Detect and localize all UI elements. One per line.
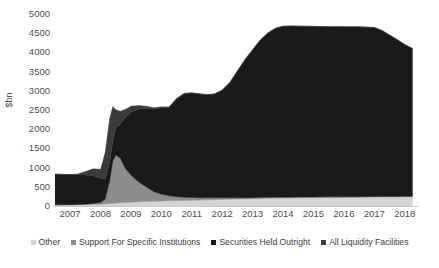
legend-swatch-icon (211, 240, 216, 245)
legend-swatch-icon (321, 240, 326, 245)
area-series (55, 26, 412, 205)
x-tick-label: 2016 (333, 209, 354, 219)
y-tick-label: 1500 (12, 144, 50, 154)
legend-label: Securities Held Outright (219, 238, 310, 247)
y-axis-tick-labels: 0500100015002000250030003500400045005000 (12, 14, 50, 206)
y-tick-label: 5000 (12, 9, 50, 19)
y-tick-label: 2000 (12, 124, 50, 134)
legend-item[interactable]: Support For Specific Institutions (71, 238, 200, 247)
legend-swatch-icon (71, 240, 76, 245)
y-tick-label: 4000 (12, 48, 50, 58)
legend-swatch-icon (31, 240, 36, 245)
x-tick-label: 2010 (151, 209, 172, 219)
x-tick-label: 2017 (364, 209, 385, 219)
y-tick-label: 0 (12, 201, 50, 211)
area-series-group (55, 14, 417, 206)
x-tick-label: 2007 (60, 209, 81, 219)
x-axis-line (54, 206, 418, 207)
legend-item[interactable]: Other (31, 238, 61, 247)
legend-label: All Liquidity Facilities (329, 238, 408, 247)
y-tick-label: 3000 (12, 86, 50, 96)
y-tick-label: 2500 (12, 105, 50, 115)
x-tick-label: 2009 (120, 209, 141, 219)
x-tick-label: 2015 (303, 209, 324, 219)
x-tick-label: 2011 (182, 209, 202, 219)
legend-item[interactable]: All Liquidity Facilities (321, 238, 408, 247)
legend-item[interactable]: Securities Held Outright (211, 238, 310, 247)
chart-legend: OtherSupport For Specific InstitutionsSe… (0, 238, 439, 247)
x-tick-label: 2013 (242, 209, 263, 219)
legend-label: Other (39, 238, 61, 247)
y-tick-label: 500 (12, 182, 50, 192)
legend-label: Support For Specific Institutions (79, 238, 200, 247)
x-axis-tick-labels: 2007200820092010201120122013201420152016… (55, 209, 417, 225)
y-tick-label: 1000 (12, 163, 50, 173)
x-tick-label: 2008 (90, 209, 111, 219)
stacked-area-chart: $bn 050010001500200025003000350040004500… (0, 0, 439, 268)
x-tick-label: 2018 (394, 209, 415, 219)
plot-area (55, 14, 417, 206)
x-tick-label: 2012 (212, 209, 233, 219)
y-tick-label: 4500 (12, 28, 50, 38)
y-tick-label: 3500 (12, 67, 50, 77)
x-tick-label: 2014 (272, 209, 293, 219)
